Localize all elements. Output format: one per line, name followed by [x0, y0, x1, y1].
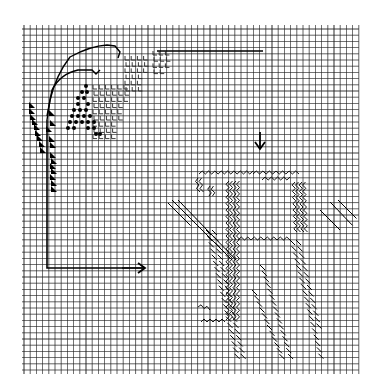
dot-stitch-icon: [66, 126, 70, 130]
dot-stitch-icon: [80, 120, 84, 124]
dot-stitch-icon: [86, 102, 90, 106]
dot-stitch-icon: [80, 90, 84, 94]
dot-stitch-icon: [72, 108, 76, 112]
dot-stitch-icon: [86, 120, 90, 124]
dot-stitch-icon: [84, 84, 88, 88]
dot-stitch-icon: [76, 102, 80, 106]
dot-stitch-icon: [78, 108, 82, 112]
dot-stitch-icon: [72, 126, 76, 130]
dot-stitch-icon: [76, 114, 80, 118]
dot-stitch-icon: [82, 96, 86, 100]
dot-stitch-icon: [68, 120, 72, 124]
dot-stitch-icon: [70, 114, 74, 118]
dot-stitch-icon: [76, 96, 80, 100]
dot-stitch-icon: [82, 114, 86, 118]
dot-stitch-icon: [88, 114, 92, 118]
dot-stitch-icon: [84, 108, 88, 112]
dot-stitch-icon: [74, 120, 78, 124]
dot-stitch-icon: [85, 90, 89, 94]
stitch-chart: [0, 0, 379, 392]
dot-stitch-icon: [86, 126, 90, 130]
